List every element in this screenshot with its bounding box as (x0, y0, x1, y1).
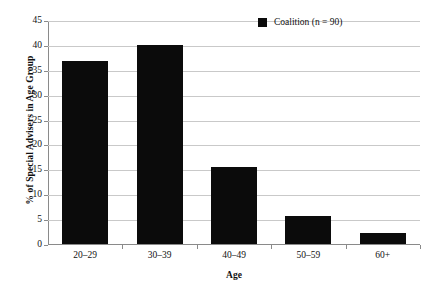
x-tick-mark (420, 245, 421, 249)
y-tick-mark (44, 220, 48, 221)
y-tick-mark (44, 21, 48, 22)
y-tick-mark (44, 170, 48, 171)
bar (62, 61, 108, 244)
y-tick-mark (44, 71, 48, 72)
x-tick-label: 30–39 (148, 251, 172, 261)
x-tick-mark (346, 245, 347, 249)
y-axis-line (48, 21, 49, 245)
gridline (48, 46, 420, 47)
y-tick-mark (44, 245, 48, 246)
bar (137, 45, 183, 244)
x-tick-label: 60+ (375, 251, 390, 261)
x-tick-label: 50–59 (297, 251, 321, 261)
y-tick-label: 10 (33, 190, 43, 200)
gridline (48, 21, 420, 22)
y-tick-label: 15 (33, 166, 43, 176)
y-tick-label: 40 (33, 41, 43, 51)
x-axis-title: Age (48, 271, 420, 281)
y-tick-mark (44, 195, 48, 196)
y-tick-label: 30 (33, 91, 43, 101)
y-tick-label: 20 (33, 141, 43, 151)
bar-chart: % of Special Advisers in Age Group 05101… (0, 0, 436, 290)
x-tick-mark (197, 245, 198, 249)
y-tick-label: 45 (33, 16, 43, 26)
bar (360, 233, 406, 244)
y-tick-mark (44, 46, 48, 47)
y-tick-mark (44, 121, 48, 122)
legend-swatch-icon (258, 18, 267, 27)
y-tick-label: 0 (37, 240, 42, 250)
x-tick-mark (271, 245, 272, 249)
y-tick-label: 5 (37, 215, 42, 225)
legend: Coalition (n = 90) (258, 18, 342, 28)
x-tick-label: 20–29 (73, 251, 97, 261)
bar (285, 216, 331, 244)
y-tick-mark (44, 145, 48, 146)
x-tick-mark (122, 245, 123, 249)
x-axis-line (48, 244, 420, 245)
bar (211, 167, 257, 244)
y-tick-mark (44, 96, 48, 97)
x-tick-label: 40–49 (222, 251, 246, 261)
y-tick-label: 25 (33, 116, 43, 126)
plot-area: 051015202530354045 20–2930–3940–4950–596… (48, 21, 420, 245)
legend-label: Coalition (n = 90) (274, 18, 342, 28)
y-tick-label: 35 (33, 66, 43, 76)
